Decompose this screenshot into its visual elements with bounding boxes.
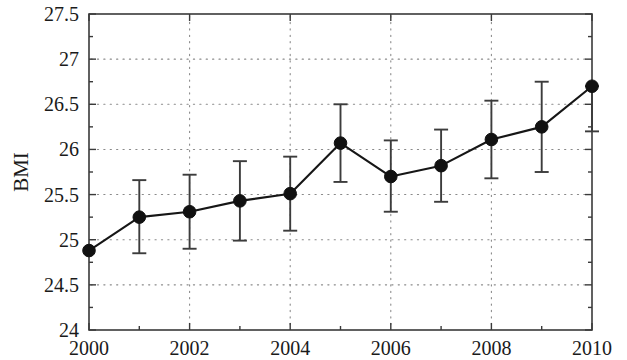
y-tick-label: 27.5 (44, 3, 79, 25)
y-tick-label: 26 (59, 138, 79, 160)
data-point-marker (385, 170, 398, 183)
y-tick-label: 25.5 (44, 184, 79, 206)
chart-figure: 2424.52525.52626.52727.5 200020022004200… (0, 0, 627, 360)
data-point-marker (183, 205, 196, 218)
y-tick-label: 27 (59, 48, 79, 70)
x-tick-label: 2006 (371, 337, 411, 359)
x-tick-label: 2000 (69, 337, 109, 359)
chart-background (0, 0, 627, 360)
x-tick-label: 2008 (471, 337, 511, 359)
x-tick-label: 2010 (572, 337, 612, 359)
data-point-marker (535, 121, 548, 134)
bmi-trend-line-chart: 2424.52525.52626.52727.5 200020022004200… (0, 0, 627, 360)
data-point-marker (435, 159, 448, 172)
y-tick-label: 26.5 (44, 93, 79, 115)
y-axis-title: BMI (9, 152, 33, 192)
x-tick-label: 2004 (270, 337, 310, 359)
data-point-marker (284, 187, 297, 200)
y-tick-label: 24.5 (44, 274, 79, 296)
x-tick-label: 2002 (170, 337, 210, 359)
data-point-marker (83, 244, 96, 257)
data-point-marker (334, 137, 347, 150)
data-point-marker (586, 80, 599, 93)
data-point-marker (485, 133, 498, 146)
data-point-marker (133, 211, 146, 224)
axis-titles: BMI (9, 152, 33, 192)
data-point-marker (234, 195, 247, 208)
y-tick-label: 25 (59, 229, 79, 251)
